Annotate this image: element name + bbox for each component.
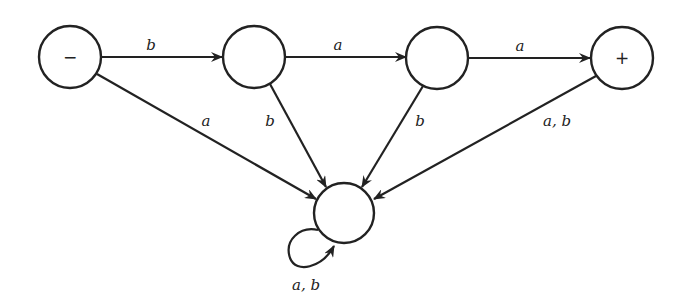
edge-s1-s5: [97, 74, 316, 199]
label-s2-s5: b: [265, 112, 275, 130]
label-s5-loop: a, b: [292, 276, 320, 294]
edge-s2-s5: [270, 84, 326, 187]
edge-s4-s5: [374, 76, 596, 199]
state-s5-trap: [314, 183, 374, 243]
label-s4-s5: a, b: [543, 112, 571, 130]
edge-s3-s5: [362, 86, 423, 187]
state-s2: [223, 26, 285, 88]
label-s2-s3: a: [334, 36, 343, 54]
label-s1-s5: a: [202, 112, 211, 130]
label-s3-s4: a: [516, 37, 525, 55]
label-s3-s5: b: [415, 112, 425, 130]
final-symbol: +: [615, 48, 629, 68]
label-s1-s2: b: [146, 36, 156, 54]
start-symbol: −: [63, 47, 77, 67]
automaton-diagram: − + b a a a b b a, b a, b: [0, 0, 685, 299]
state-s3: [406, 27, 468, 89]
